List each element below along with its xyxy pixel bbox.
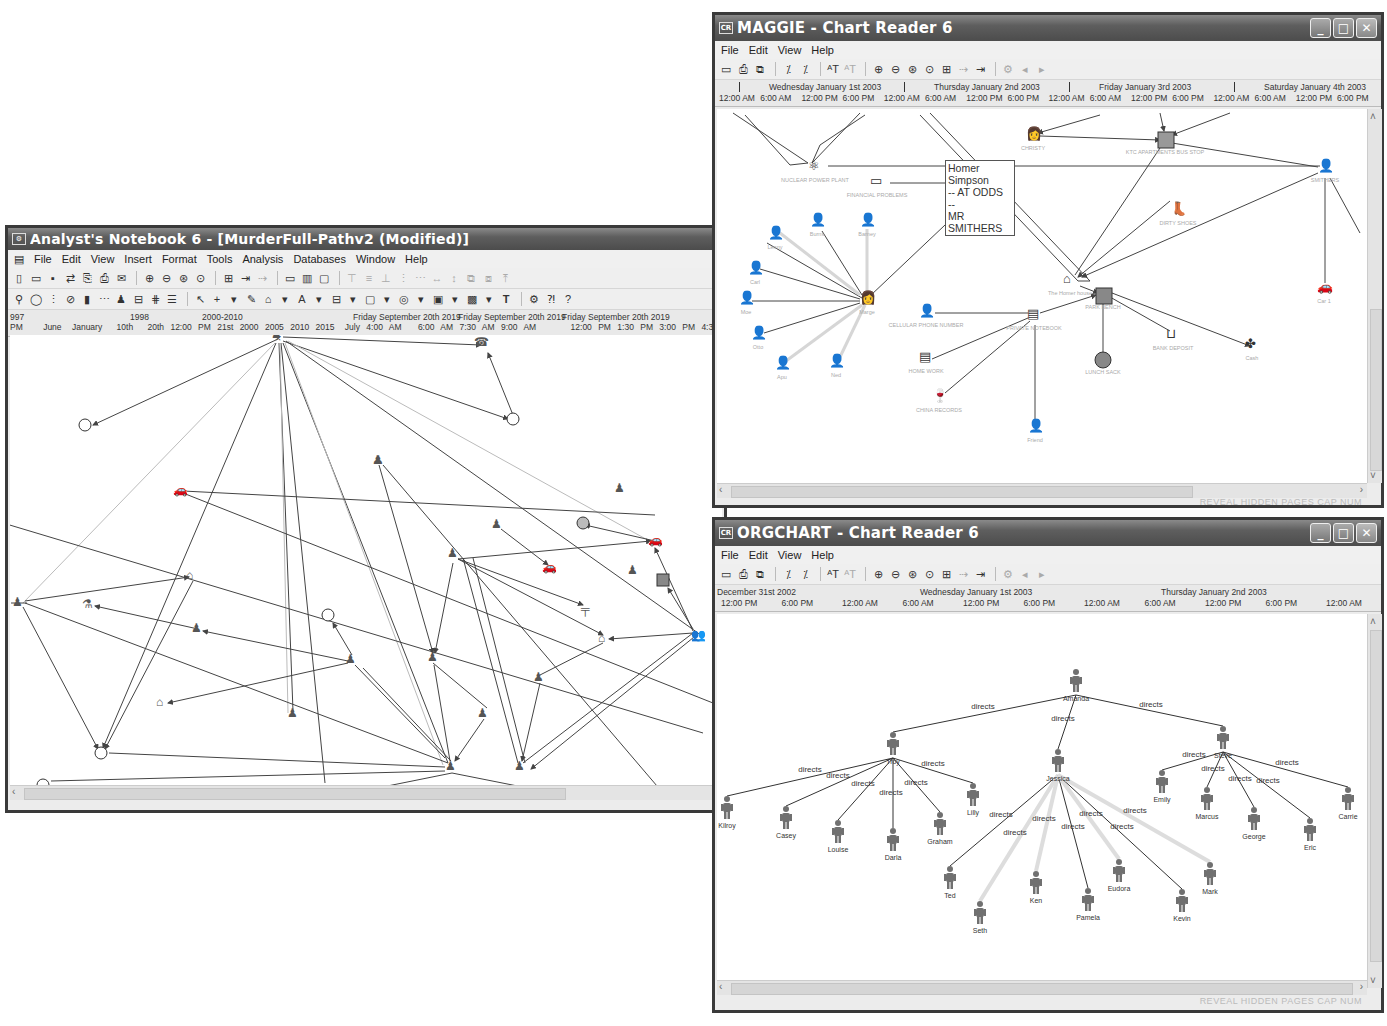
orgchart-canvas[interactable]: directsdirectsdirectsdirectsdirectsdirec… [717, 614, 1367, 988]
print-icon[interactable]: ⎙ [97, 271, 111, 285]
maggie-titlebar[interactable]: CR MAGGIE - Chart Reader 6 _ □ ✕ [715, 15, 1381, 41]
dropdown-icon[interactable]: ▾ [312, 292, 326, 306]
person-node[interactable]: Mark [1202, 862, 1218, 895]
car-icon[interactable]: 🚗 [1317, 280, 1333, 294]
dropdown-icon[interactable]: ▾ [278, 292, 292, 306]
person-node[interactable]: Ted [944, 866, 956, 899]
settings-icon[interactable]: ⚙ [1001, 567, 1015, 581]
menu-help[interactable]: Help [811, 549, 834, 561]
export-icon[interactable]: ⎘ [80, 271, 94, 285]
menu-view[interactable]: View [91, 253, 115, 265]
import-icon[interactable]: ⇄ [63, 271, 77, 285]
menu-tools[interactable]: Tools [207, 253, 233, 265]
gun-icon[interactable]: ╤ [581, 602, 590, 616]
fit-window-icon[interactable]: ⊞ [939, 62, 953, 76]
copy-icon[interactable]: ⧉ [753, 567, 767, 581]
align-top-icon[interactable]: ⊤ [345, 271, 359, 285]
maggie-vertical-scrollbar[interactable]: ˄ ˅ [1367, 109, 1382, 483]
pointer-icon[interactable]: ↖ [193, 292, 207, 306]
person-icon[interactable]: ♟ [287, 706, 298, 720]
scroll-right-icon[interactable]: › [1360, 981, 1363, 992]
zoom-fit-icon[interactable]: ⊛ [176, 271, 190, 285]
boots-icon[interactable]: 👢 [1171, 202, 1187, 216]
person-node[interactable]: Kevin [1173, 889, 1191, 922]
menu-edit[interactable]: Edit [749, 549, 768, 561]
zoom-in-icon[interactable]: ⊕ [142, 271, 156, 285]
anb-horizontal-scrollbar[interactable]: ‹ › [10, 785, 722, 800]
scroll-thumb[interactable] [24, 788, 566, 800]
icon-style-icon[interactable]: ▩ [465, 292, 479, 306]
orgchart-horizontal-scrollbar[interactable]: ‹ › [717, 980, 1367, 995]
dropdown-icon[interactable]: ▾ [227, 292, 241, 306]
anb-timeline-ruler[interactable]: 997 1998 2000-2010 Friday September 20th… [8, 310, 724, 337]
menu-view[interactable]: View [778, 549, 802, 561]
dropdown-icon[interactable]: ▾ [346, 292, 360, 306]
person-node[interactable]: Louise [828, 820, 849, 853]
directs-link[interactable] [727, 758, 893, 796]
scroll-up-icon[interactable]: ˄ [1370, 616, 1376, 627]
anb-chart-canvas[interactable]: 🯅 ♟☎🚗♟🚗♟♟♟🚗♟╤⌂👥⌂♟⚗♟♟♟⌂♟♟♟♟♟♟ [10, 335, 722, 785]
person-icon[interactable]: ♟ [491, 517, 502, 531]
person-icon[interactable]: ♟ [191, 621, 202, 635]
text-on-icon[interactable]: ᴬT [826, 567, 840, 581]
dropdown-icon[interactable]: ▾ [414, 292, 428, 306]
anb-titlebar[interactable]: ⚙ Analyst's Notebook 6 - [MurderFull-Pat… [8, 228, 724, 250]
person-node[interactable]: Kilroy [718, 796, 736, 830]
person-icon[interactable]: ♟ [345, 652, 356, 666]
minimize-button[interactable]: _ [1310, 18, 1331, 38]
orgchart-timeline-ruler[interactable]: December 31st 2002Wednesday January 1st … [715, 585, 1381, 612]
person-icon[interactable]: ♟ [373, 453, 384, 467]
back-icon[interactable]: ◂ [1018, 567, 1032, 581]
man-icon[interactable]: 👤 [748, 261, 764, 275]
navigate-icon[interactable]: ⇥ [973, 567, 987, 581]
distribute-icon[interactable]: ⋮ [396, 271, 410, 285]
zoom-out-icon[interactable]: ⊖ [159, 271, 173, 285]
zoom-in-icon[interactable]: ⊕ [871, 62, 885, 76]
menu-format[interactable]: Format [162, 253, 197, 265]
menu-file[interactable]: File [34, 253, 52, 265]
circle-tool-icon[interactable]: ◯ [29, 292, 43, 306]
directs-link[interactable] [1058, 775, 1210, 862]
open-icon[interactable]: ▭ [719, 62, 733, 76]
menu-file[interactable]: File [721, 549, 739, 561]
person-node[interactable]: Pamela [1076, 888, 1100, 921]
hide-links-icon[interactable]: ⁒ [798, 62, 812, 76]
person-node[interactable]: Carrie [1338, 787, 1357, 820]
person-group-icon[interactable]: 👥 [691, 628, 706, 642]
person-icon[interactable]: ♟ [447, 546, 458, 560]
zoom-out-icon[interactable]: ⊖ [888, 62, 902, 76]
copy-icon[interactable]: ⧉ [753, 62, 767, 76]
print-icon[interactable]: ⎙ [736, 62, 750, 76]
text-off-icon[interactable]: ᴬT [843, 62, 857, 76]
forward-icon[interactable]: ▸ [1035, 62, 1049, 76]
man-icon[interactable]: 👤 [1318, 159, 1334, 173]
person-node[interactable]: Amanda [1063, 669, 1089, 702]
order-icon[interactable]: ⤒ [498, 271, 512, 285]
zoom-fit-icon[interactable]: ⊛ [905, 62, 919, 76]
tray-icon[interactable]: ⊔ [1166, 327, 1176, 341]
person-icon[interactable]: ♟ [614, 481, 625, 495]
maximize-button[interactable]: □ [1333, 18, 1354, 38]
link-icon[interactable]: ⇢ [255, 271, 269, 285]
save-icon[interactable]: ▪ [46, 271, 60, 285]
scroll-right-icon[interactable]: › [1360, 484, 1363, 495]
scroll-left-icon[interactable]: ‹ [719, 981, 722, 992]
person-icon[interactable]: ♟ [12, 595, 23, 609]
person-node[interactable]: Emily [1153, 770, 1171, 804]
add-icon[interactable]: + [210, 292, 224, 306]
fit-window-icon[interactable]: ⊞ [939, 567, 953, 581]
distribute-h-icon[interactable]: ⋯ [413, 271, 427, 285]
man-icon[interactable]: 👤 [829, 354, 845, 368]
help-icon[interactable]: ? [561, 292, 575, 306]
box-style-icon[interactable]: ▣ [431, 292, 445, 306]
scroll-down-icon[interactable]: ˅ [1370, 975, 1376, 986]
house-icon[interactable]: ⌂ [156, 695, 163, 709]
person-icon[interactable]: ♟ [514, 759, 525, 773]
zoom-fit-icon[interactable]: ⊛ [905, 567, 919, 581]
person-icon[interactable]: ♟ [477, 706, 488, 720]
person-icon[interactable]: ♟ [427, 650, 438, 664]
align-bottom-icon[interactable]: ⊥ [379, 271, 393, 285]
maggie-horizontal-scrollbar[interactable]: ‹ › [717, 483, 1367, 498]
dropdown-icon[interactable]: ▾ [380, 292, 394, 306]
zoom-100-icon[interactable]: ⊙ [922, 567, 936, 581]
